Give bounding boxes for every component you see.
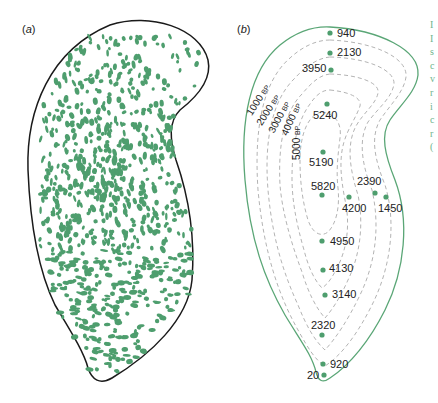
- dot-5190: [320, 149, 325, 154]
- blob: [116, 195, 120, 201]
- blob: [165, 171, 171, 177]
- blob: [184, 245, 187, 249]
- blob: [185, 292, 192, 296]
- blob: [137, 140, 142, 147]
- blob: [48, 161, 51, 169]
- blob: [106, 49, 109, 56]
- contour-unit: BP: [294, 126, 301, 135]
- dot-940: [327, 30, 332, 35]
- dot-3140: [322, 292, 327, 297]
- blob: [182, 96, 187, 101]
- blob: [189, 227, 194, 232]
- blob: [71, 334, 79, 340]
- blob: [57, 283, 63, 287]
- blob: [118, 262, 122, 267]
- blob: [92, 148, 98, 155]
- blob: [137, 295, 142, 298]
- dot-1450: [383, 194, 388, 199]
- dot-4130: [320, 267, 325, 272]
- blob: [108, 259, 113, 263]
- blob: [167, 293, 173, 298]
- blob: [64, 293, 70, 298]
- blob: [69, 70, 72, 76]
- blob: [125, 311, 130, 316]
- blob: [133, 109, 139, 115]
- dot-5820: [319, 192, 324, 197]
- caption-glyph: (: [430, 140, 438, 154]
- blob: [55, 128, 59, 133]
- blob: [96, 135, 102, 141]
- blob: [126, 250, 133, 255]
- blob: [155, 266, 162, 269]
- blob: [90, 139, 93, 143]
- blob: [49, 290, 57, 293]
- blob: [92, 97, 98, 105]
- blob: [38, 135, 43, 143]
- blob: [75, 316, 83, 321]
- contour-label-5000bp: 5000 BP: [292, 126, 302, 160]
- blob: [51, 253, 55, 256]
- blob: [39, 206, 42, 214]
- blob: [52, 182, 57, 187]
- age-label-920: 920: [330, 359, 348, 370]
- blob: [74, 87, 80, 95]
- blob: [94, 257, 98, 260]
- blob: [71, 132, 77, 141]
- blob: [50, 92, 54, 96]
- blob: [85, 89, 89, 94]
- blob: [85, 268, 92, 272]
- blob: [91, 287, 98, 292]
- contour-value: 5000: [291, 138, 302, 160]
- blob: [118, 52, 123, 56]
- dot-2320: [319, 332, 324, 337]
- blob: [121, 347, 128, 353]
- blob: [96, 44, 101, 51]
- blob: [73, 149, 76, 153]
- blob: [68, 298, 73, 302]
- blob: [53, 141, 59, 148]
- blob: [163, 265, 169, 268]
- blob: [144, 124, 149, 131]
- caption-glyph: i: [430, 100, 438, 114]
- age-label-1450: 1450: [378, 203, 402, 214]
- blob: [129, 112, 133, 116]
- blob: [120, 89, 125, 93]
- blob: [74, 268, 79, 272]
- age-label-2130: 2130: [337, 47, 361, 58]
- blob: [170, 206, 174, 210]
- blob: [67, 192, 72, 198]
- blob: [120, 357, 125, 361]
- blob: [127, 270, 131, 273]
- age-label-4130: 4130: [329, 263, 353, 274]
- blob: [167, 33, 172, 40]
- blob: [68, 159, 73, 163]
- blob: [114, 256, 123, 262]
- blob: [136, 238, 140, 244]
- blob: [66, 251, 73, 254]
- blob: [178, 101, 181, 106]
- blob: [47, 112, 51, 117]
- blob: [67, 237, 73, 245]
- blob: [164, 297, 169, 302]
- blob: [94, 367, 99, 372]
- blob: [145, 177, 149, 181]
- panel-a-blob-pattern: [38, 33, 202, 374]
- caption-glyph: I: [430, 18, 438, 32]
- blob: [154, 200, 158, 206]
- blob: [158, 277, 164, 282]
- age-label-3140: 3140: [332, 289, 356, 300]
- blob: [40, 184, 44, 189]
- blob: [84, 346, 89, 350]
- blob: [146, 303, 150, 307]
- blob: [54, 174, 58, 180]
- age-label-5190: 5190: [309, 157, 333, 168]
- blob: [80, 251, 85, 256]
- blob: [132, 235, 136, 240]
- blob: [143, 41, 147, 47]
- blob: [86, 108, 91, 114]
- blob: [113, 63, 118, 70]
- blob: [162, 78, 167, 85]
- blob: [105, 212, 109, 220]
- blob: [110, 291, 115, 296]
- blob: [108, 334, 116, 339]
